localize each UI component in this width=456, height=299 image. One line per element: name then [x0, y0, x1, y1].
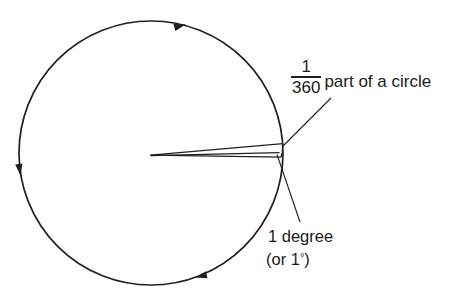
leader-line-fraction [283, 98, 332, 147]
fraction-annotation: 1 360 part of a circle [291, 58, 431, 96]
fraction-numerator: 1 [298, 58, 313, 76]
fraction-one-over-360: 1 360 [291, 58, 321, 96]
degree-paren-suffix: ) [304, 250, 310, 268]
direction-arrow-left-icon [15, 164, 24, 177]
part-of-a-circle-text: part of a circle [324, 72, 431, 92]
degree-label-line2: (or 1°) [266, 247, 333, 270]
leader-line-degree [277, 155, 300, 223]
degree-label-line1: 1 degree [266, 226, 333, 247]
fraction-denominator: 360 [291, 78, 321, 96]
degree-circle-diagram [0, 0, 456, 299]
degree-annotation: 1 degree (or 1°) [266, 226, 333, 270]
degree-paren-prefix: (or 1 [266, 250, 300, 268]
